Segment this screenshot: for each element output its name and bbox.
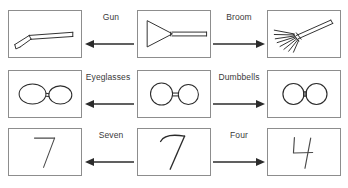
arrow-right — [213, 150, 265, 174]
arrow-label-four: Four — [213, 130, 265, 141]
interpretation-diagram: Gun Broom — [0, 0, 348, 188]
arrow-label-seven: Seven — [88, 130, 134, 141]
dumbbells-drawing — [267, 70, 341, 118]
arrow-label-dumbbells: Dumbbells — [213, 72, 265, 83]
seven-drawing — [8, 128, 82, 176]
diagram-row: Seven Four — [0, 128, 348, 184]
gun-drawing — [8, 10, 82, 58]
eyeglasses-drawing — [8, 70, 82, 118]
arrow-left — [85, 32, 135, 56]
diagram-row: Gun Broom — [0, 10, 348, 66]
four-drawing — [267, 128, 341, 176]
arrow-left — [85, 150, 135, 174]
ambiguous-digit-drawing — [137, 128, 211, 176]
arrow-left — [85, 92, 135, 116]
arrow-label-eyeglasses: Eyeglasses — [79, 72, 137, 83]
broom-drawing — [267, 10, 341, 58]
arrow-label-gun: Gun — [88, 12, 134, 23]
arrow-label-broom: Broom — [213, 12, 265, 23]
diagram-row: Eyeglasses Dumbbells — [0, 70, 348, 126]
triangle-shaft-drawing — [137, 10, 211, 58]
two-circles-bar-drawing — [137, 70, 211, 118]
arrow-right — [213, 92, 265, 116]
arrow-right — [213, 32, 265, 56]
